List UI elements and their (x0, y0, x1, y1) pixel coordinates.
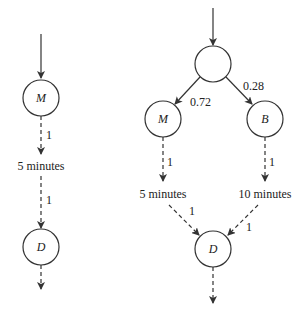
right-node-d-label: D (208, 242, 218, 256)
left-diagram: M 1 5 minutes 1 D (18, 34, 65, 289)
left-m-to-delay-label: 1 (46, 128, 52, 142)
right-diagram: 0.72 0.28 M B 1 1 5 minutes 10 minutes 1… (140, 8, 292, 303)
diagram-canvas: M 1 5 minutes 1 D 0.72 0.28 M B 1 1 5 mi… (0, 0, 300, 321)
left-node-m-label: M (35, 91, 47, 105)
left-delay-label: 5 minutes (18, 159, 65, 173)
right-delay10-to-d-edge (228, 205, 258, 235)
right-b-to-delay-label: 1 (269, 155, 275, 169)
right-root-to-b-label: 0.28 (243, 79, 264, 93)
left-delay-to-d-label: 1 (46, 193, 52, 207)
right-m-to-delay-label: 1 (167, 155, 173, 169)
right-delay5-to-d-label: 1 (189, 204, 195, 218)
right-node-m-label: M (157, 112, 169, 126)
right-node-root (195, 46, 231, 82)
left-node-d-label: D (36, 240, 46, 254)
right-node-b-label: B (261, 112, 269, 126)
right-delay10-to-d-label: 1 (246, 220, 252, 234)
right-root-to-m-label: 0.72 (190, 95, 211, 109)
right-b-delay-label: 10 minutes (239, 187, 292, 201)
right-m-delay-label: 5 minutes (140, 187, 187, 201)
